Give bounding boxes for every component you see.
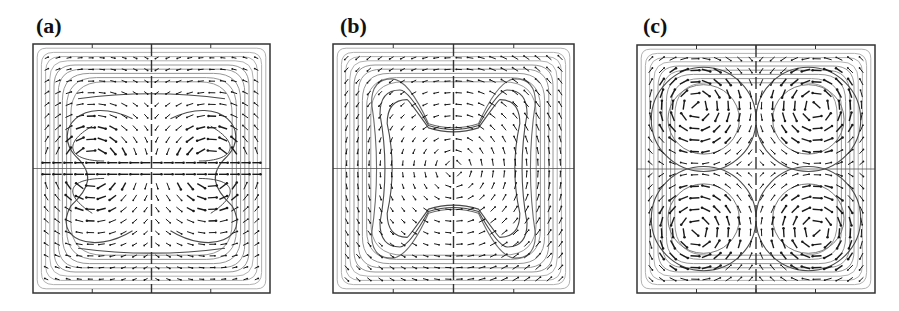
vector-field-panel-c: [637, 45, 875, 293]
panel-label-a: (a): [36, 15, 62, 37]
panel-label-b: (b): [340, 15, 367, 37]
panel-label-c: (c): [643, 15, 667, 37]
vector-field-panel-a: [33, 44, 270, 293]
vector-field-panel-b: [333, 44, 574, 293]
